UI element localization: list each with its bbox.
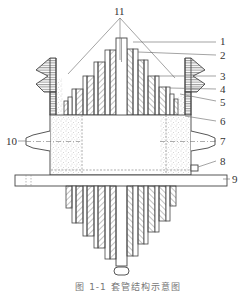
callout-label-1: 1: [220, 36, 226, 47]
callout-label-2: 2: [220, 50, 226, 61]
flange-body: [50, 115, 191, 175]
callout-label-4: 4: [220, 84, 226, 95]
test-tap: [191, 165, 198, 171]
callout-label-10: 10: [6, 136, 17, 147]
left-cone-terminal: [26, 131, 50, 151]
callout-label-8: 8: [220, 156, 226, 167]
callout-label-9: 9: [232, 174, 238, 185]
callout-label-7: 7: [220, 136, 226, 147]
figure-caption: 图 1-1 套管结构示意图: [58, 280, 198, 293]
left-insulator-shed: [36, 58, 56, 115]
callout-label-5: 5: [220, 97, 226, 108]
right-insulator-shed: [185, 58, 205, 115]
callout-label-11: 11: [114, 6, 125, 17]
callout-label-6: 6: [220, 116, 226, 127]
callout-label-3: 3: [220, 71, 226, 82]
mounting-plate: [15, 175, 227, 186]
right-cone-terminal: [191, 131, 215, 151]
